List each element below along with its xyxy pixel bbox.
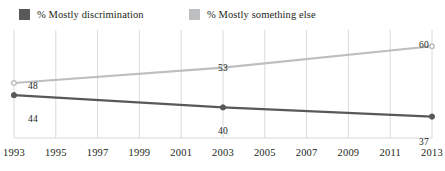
legend-swatch-icon bbox=[189, 9, 200, 20]
x-tick-label-2009: 2009 bbox=[337, 146, 359, 159]
data-point-2013-series-0 bbox=[429, 114, 434, 119]
point-label-1993-something-else: 48 bbox=[28, 81, 38, 92]
x-tick-label-1999: 1999 bbox=[128, 146, 150, 159]
data-point-1993-series-1 bbox=[12, 81, 16, 85]
x-tick-label-1995: 1995 bbox=[45, 146, 67, 159]
x-tick-label-1997: 1997 bbox=[87, 146, 109, 159]
point-label-2013-something-else: 60 bbox=[419, 40, 429, 51]
legend-swatch-icon bbox=[19, 9, 30, 20]
x-tick-label-2013: 2013 bbox=[421, 146, 443, 159]
x-tick-label-2011: 2011 bbox=[379, 146, 400, 159]
point-label-2003-something-else: 53 bbox=[218, 63, 228, 74]
chart-gridlines bbox=[14, 30, 432, 138]
legend-item-label: % Mostly something else bbox=[207, 9, 316, 20]
x-tick-label-2005: 2005 bbox=[254, 146, 276, 159]
legend-item-label: % Mostly discrimination bbox=[37, 9, 144, 20]
point-label-1993-discrimination: 44 bbox=[28, 114, 38, 125]
legend-item-mostly-something-else: % Mostly something else bbox=[189, 9, 316, 20]
chart-legend: % Mostly discrimination % Mostly somethi… bbox=[0, 0, 445, 30]
legend-item-mostly-discrimination: % Mostly discrimination bbox=[19, 9, 144, 20]
point-label-2003-discrimination: 40 bbox=[218, 126, 228, 137]
data-point-1993-series-0 bbox=[11, 93, 16, 98]
x-tick-label-2001: 2001 bbox=[170, 146, 192, 159]
data-point-2013-series-1 bbox=[430, 44, 434, 48]
chart-x-axis: 1993199519971999200120032005200720092011… bbox=[0, 146, 445, 171]
x-tick-label-1993: 1993 bbox=[3, 146, 25, 159]
x-tick-label-2003: 2003 bbox=[212, 146, 234, 159]
data-point-2003-series-0 bbox=[220, 105, 225, 110]
x-tick-label-2007: 2007 bbox=[296, 146, 318, 159]
